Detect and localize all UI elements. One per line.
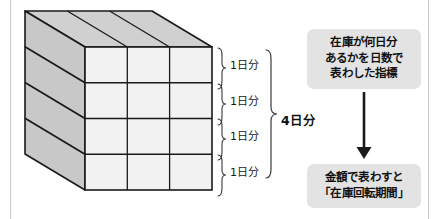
row-label-group: 1日分 1日分 1日分 1日分 <box>230 59 259 179</box>
total-brace <box>266 50 277 178</box>
row-label-3: 1日分 <box>230 130 259 143</box>
row-label-4: 1日分 <box>230 166 259 179</box>
callout-term: 金額で表わすと 「在庫回転期間」 <box>307 164 421 208</box>
down-arrow <box>357 92 372 159</box>
stack-cube <box>25 11 212 190</box>
row-label-1: 1日分 <box>230 59 259 72</box>
row-label-2: 1日分 <box>230 95 259 108</box>
arrow-head-icon <box>357 147 372 159</box>
total-label: 4日分 <box>281 113 316 128</box>
callout-definition: 在庫が何日分 あるかを日数で 表わした指標 <box>307 29 421 89</box>
row-brace-group <box>218 48 226 196</box>
figure-page: 1日分 1日分 1日分 1日分 4日分 在庫が何日分 あるかを日数で 表わした指… <box>0 0 439 219</box>
row-brace-1 <box>218 48 226 89</box>
row-brace-4 <box>218 155 226 196</box>
